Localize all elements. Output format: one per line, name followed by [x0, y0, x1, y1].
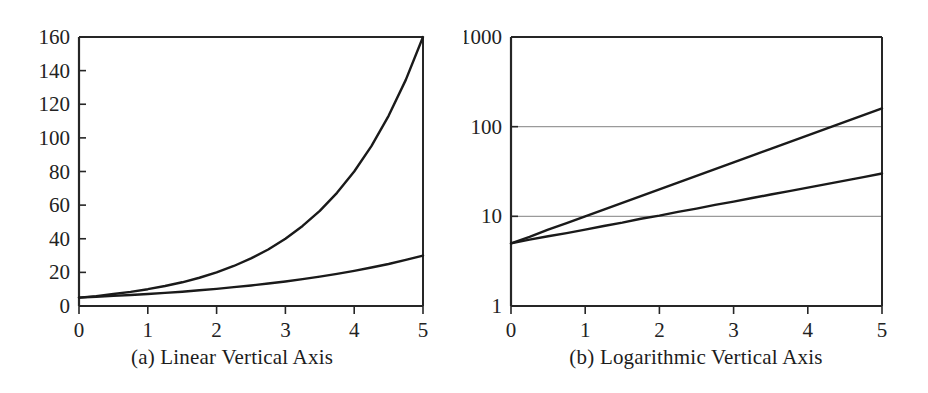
y-tick-label: 140	[39, 59, 71, 83]
panel-a-caption: (a) Linear Vertical Axis	[0, 345, 464, 370]
panel-b-caption: (b) Logarithmic Vertical Axis	[464, 345, 928, 370]
x-tick-label: 1	[580, 318, 591, 342]
y-tick-label: 160	[39, 25, 71, 49]
y-tick-label: 40	[49, 227, 70, 251]
y-tick-label: 120	[39, 92, 71, 116]
panel-logarithmic-vertical-axis: 1101001000012345 (b) Logarithmic Vertica…	[464, 0, 928, 393]
y-tick-label: 80	[49, 160, 70, 184]
plot-area-logarithmic: 1101001000012345	[464, 0, 928, 345]
x-tick-label: 5	[877, 318, 888, 342]
x-tick-label: 4	[803, 318, 814, 342]
y-tick-label: 100	[471, 115, 503, 139]
data-series-line	[79, 37, 423, 298]
y-tick-label: 60	[49, 193, 70, 217]
y-tick-label: 0	[60, 294, 71, 318]
x-tick-label: 0	[506, 318, 517, 342]
data-series-line	[511, 174, 882, 244]
panel-linear-vertical-axis: 020406080100120140160012345 (a) Linear V…	[0, 0, 464, 393]
y-tick-label: 20	[49, 260, 70, 284]
y-tick-label: 10	[481, 204, 502, 228]
x-tick-label: 2	[654, 318, 665, 342]
x-tick-label: 0	[74, 318, 85, 342]
x-tick-label: 4	[349, 318, 360, 342]
plot-area-linear: 020406080100120140160012345	[0, 0, 464, 345]
x-tick-label: 3	[280, 318, 291, 342]
y-tick-label: 1000	[464, 25, 502, 49]
y-tick-label: 1	[492, 294, 503, 318]
data-series-line	[511, 108, 882, 243]
y-tick-label: 100	[39, 126, 71, 150]
x-tick-label: 3	[728, 318, 739, 342]
x-tick-label: 2	[211, 318, 222, 342]
x-tick-label: 1	[143, 318, 154, 342]
figure-two-panel-exponential-plots: 020406080100120140160012345 (a) Linear V…	[0, 0, 928, 393]
x-tick-label: 5	[418, 318, 429, 342]
